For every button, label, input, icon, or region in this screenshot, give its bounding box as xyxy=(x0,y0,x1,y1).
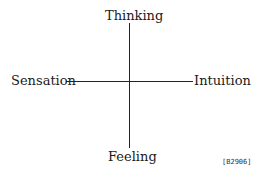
vertical-axis-line xyxy=(129,23,130,148)
label-feeling: Feeling xyxy=(108,150,157,164)
label-intuition: Intuition xyxy=(194,74,251,88)
horizontal-axis-line xyxy=(66,81,193,82)
label-thinking: Thinking xyxy=(105,9,163,23)
label-sensation: Sensation xyxy=(11,74,76,88)
figure-id: [B2906] xyxy=(222,158,252,166)
